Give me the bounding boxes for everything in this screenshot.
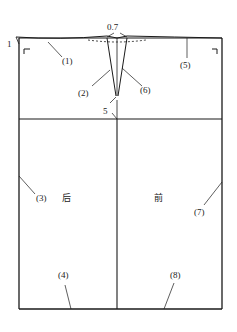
- pattern-diagram: 0.7 1 (1) (2) (6) (5) 5 (3) 后 前 (7) (4) …: [0, 0, 237, 332]
- label-4: (4): [58, 270, 69, 280]
- leader-6: [122, 68, 142, 86]
- back-corner-mark: [24, 49, 30, 54]
- leader-7: [204, 182, 222, 205]
- label-7: (7): [194, 207, 205, 217]
- leader-2: [92, 70, 110, 86]
- label-front: 前: [154, 192, 163, 203]
- dart-right: [118, 38, 127, 96]
- label-3: (3): [36, 193, 47, 203]
- label-dart-width: 0.7: [107, 22, 119, 32]
- leader-8: [164, 283, 174, 309]
- leader-1: [48, 42, 62, 57]
- label-raise: 1: [7, 39, 12, 49]
- label-dart-depth: 5: [103, 106, 108, 116]
- leader-5c: [112, 113, 117, 119]
- label-2: (2): [78, 88, 89, 98]
- label-back: 后: [62, 193, 71, 203]
- dart-left: [107, 38, 116, 96]
- front-corner-mark: [212, 49, 217, 54]
- leader-4: [65, 285, 71, 309]
- label-6: (6): [140, 85, 151, 95]
- label-1: (1): [62, 56, 73, 66]
- leader-5b: [110, 97, 116, 103]
- leader-3: [19, 176, 35, 194]
- label-5: (5): [180, 60, 191, 70]
- label-8: (8): [170, 270, 181, 280]
